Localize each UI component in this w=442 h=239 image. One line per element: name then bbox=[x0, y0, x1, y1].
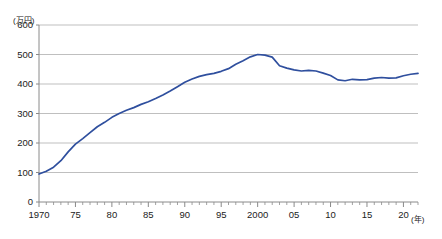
x-tick-label: 80 bbox=[107, 209, 118, 220]
x-tick-labels-group: 19707580859095200005101520 bbox=[28, 209, 408, 220]
x-tick-label: 20 bbox=[398, 209, 409, 220]
x-tick-label: 2000 bbox=[247, 209, 268, 220]
y-tick-label: 0 bbox=[28, 196, 33, 207]
x-tick-label: 05 bbox=[289, 209, 300, 220]
x-tick-label: 95 bbox=[216, 209, 227, 220]
y-tick-label: 400 bbox=[17, 78, 33, 89]
y-tick-label: 300 bbox=[17, 108, 33, 119]
y-tick-label: 200 bbox=[17, 137, 33, 148]
x-tick-marks-group bbox=[39, 202, 418, 207]
x-tick-label: 75 bbox=[70, 209, 81, 220]
y-tick-labels-group: 0100200300400500600 bbox=[17, 19, 33, 207]
x-tick-label: 15 bbox=[362, 209, 373, 220]
x-tick-label: 90 bbox=[179, 209, 190, 220]
chart-container: (万円) (年) 0100200300400500600 19707580859… bbox=[0, 0, 442, 239]
data-series-line bbox=[39, 55, 418, 174]
gridlines-group bbox=[36, 25, 418, 202]
y-tick-label: 100 bbox=[17, 167, 33, 178]
x-tick-label: 10 bbox=[325, 209, 336, 220]
y-tick-label: 500 bbox=[17, 49, 33, 60]
x-tick-label: 85 bbox=[143, 209, 154, 220]
line-chart-svg: 0100200300400500600 19707580859095200005… bbox=[0, 0, 442, 239]
y-tick-label: 600 bbox=[17, 19, 33, 30]
x-tick-label: 1970 bbox=[28, 209, 49, 220]
